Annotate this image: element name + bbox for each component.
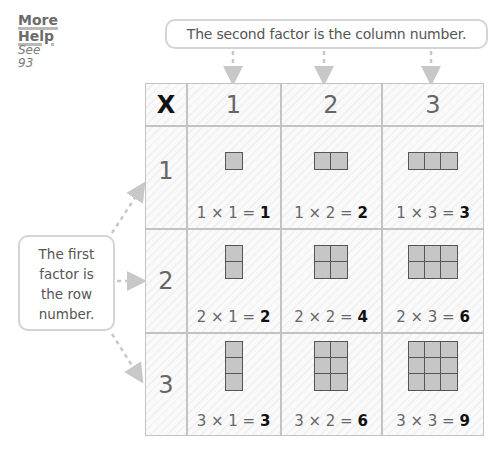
product-value: 3 (260, 412, 270, 430)
array-1x2 (314, 152, 348, 170)
unit-square (331, 262, 347, 278)
product-value: 2 (357, 204, 367, 222)
unit-square (331, 358, 347, 374)
unit-square (425, 342, 441, 358)
equation: 2 × 2 = 4 (281, 308, 381, 326)
array-3x2 (314, 341, 348, 391)
unit-square (441, 374, 457, 390)
equation: 2 × 3 = 6 (382, 308, 484, 326)
multiplication-table: X 1 2 3 1 2 3 1 × 1 = 1 1 × 2 = 2 1 × 3 … (145, 83, 484, 436)
column-header-1: 1 (187, 84, 280, 125)
arrow-up-right-icon (112, 190, 140, 233)
unit-square (441, 358, 457, 374)
equation-text: 1 × 2 = (294, 204, 357, 222)
product-cell: 2 × 2 = 4 (281, 229, 381, 332)
equation: 1 × 1 = 1 (187, 204, 280, 222)
unit-square (425, 358, 441, 374)
equation: 1 × 2 = 2 (281, 204, 381, 222)
product-cell: 3 × 2 = 6 (281, 333, 381, 436)
unit-square (226, 342, 242, 358)
unit-square (226, 374, 242, 390)
unit-square (441, 246, 457, 262)
unit-square (425, 246, 441, 262)
product-cell: 3 × 3 = 9 (382, 333, 484, 436)
product-value: 1 (260, 204, 270, 222)
product-cell: 1 × 2 = 2 (281, 126, 381, 228)
unit-square (425, 262, 441, 278)
unit-square (425, 374, 441, 390)
unit-square (315, 342, 331, 358)
unit-square (441, 262, 457, 278)
product-value: 2 (260, 308, 270, 326)
unit-square (226, 246, 242, 262)
equation-text: 1 × 1 = (197, 204, 260, 222)
equation-text: 1 × 3 = (396, 204, 459, 222)
column-header-2: 2 (281, 84, 381, 125)
unit-square (409, 153, 425, 169)
equation-text: 2 × 1 = (197, 308, 260, 326)
equation-text: 3 × 3 = (396, 412, 459, 430)
equation: 3 × 2 = 6 (281, 412, 381, 430)
equation-text: 2 × 3 = (396, 308, 459, 326)
product-value: 6 (357, 412, 367, 430)
array-2x3 (408, 245, 458, 279)
product-cell: 2 × 3 = 6 (382, 229, 484, 332)
unit-square (226, 358, 242, 374)
equation: 1 × 3 = 3 (382, 204, 484, 222)
product-cell: 1 × 1 = 1 (187, 126, 280, 228)
times-operator-header: X (146, 84, 186, 125)
unit-square (226, 262, 242, 278)
unit-square (315, 153, 331, 169)
unit-square (315, 374, 331, 390)
row-header-3: 3 (146, 333, 186, 436)
unit-square (331, 374, 347, 390)
array-1x1 (225, 152, 243, 170)
unit-square (425, 153, 441, 169)
product-cell: 2 × 1 = 2 (187, 229, 280, 332)
unit-square (441, 342, 457, 358)
unit-square (409, 342, 425, 358)
array-3x1 (225, 341, 243, 391)
unit-square (315, 246, 331, 262)
unit-square (409, 262, 425, 278)
arrow-down-right-icon (112, 334, 138, 375)
equation: 3 × 3 = 9 (382, 412, 484, 430)
equation-text: 3 × 2 = (294, 412, 357, 430)
equation: 2 × 1 = 2 (187, 308, 280, 326)
array-2x2 (314, 245, 348, 279)
product-value: 3 (459, 204, 469, 222)
array-2x1 (225, 245, 243, 279)
product-cell: 1 × 3 = 3 (382, 126, 484, 228)
unit-square (315, 262, 331, 278)
product-value: 9 (459, 412, 469, 430)
unit-square (331, 153, 347, 169)
column-header-3: 3 (382, 84, 484, 125)
unit-square (315, 358, 331, 374)
product-value: 4 (357, 308, 367, 326)
unit-square (409, 374, 425, 390)
unit-square (226, 153, 242, 169)
unit-square (441, 153, 457, 169)
equation: 3 × 1 = 3 (187, 412, 280, 430)
product-value: 6 (459, 308, 469, 326)
unit-square (409, 246, 425, 262)
product-cell: 3 × 1 = 3 (187, 333, 280, 436)
unit-square (409, 358, 425, 374)
unit-square (331, 342, 347, 358)
row-header-2: 2 (146, 229, 186, 332)
equation-text: 2 × 2 = (294, 308, 357, 326)
array-3x3 (408, 341, 458, 391)
unit-square (331, 246, 347, 262)
equation-text: 3 × 1 = (197, 412, 260, 430)
array-1x3 (408, 152, 458, 170)
row-header-1: 1 (146, 126, 186, 216)
